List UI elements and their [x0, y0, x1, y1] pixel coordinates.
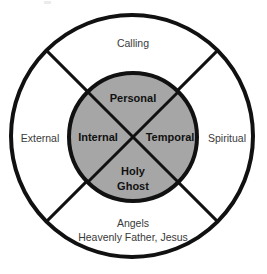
quadrant-label-left-internal: Internal [78, 131, 118, 143]
quadrant-label-bottom-ghost: Ghost [117, 180, 149, 192]
ring-label-bottom-heavenly-father-jesus: Heavenly Father, Jesus [78, 231, 188, 243]
quadrant-label-bottom-holy: Holy [121, 165, 146, 177]
diagram-container: Calling External Spiritual Angels Heaven… [0, 0, 267, 274]
ring-label-left-external: External [21, 132, 60, 144]
quadrant-label-top-personal: Personal [110, 92, 156, 104]
quadrant-label-right-temporal: Temporal [146, 131, 195, 143]
concentric-quadrant-diagram: Calling External Spiritual Angels Heaven… [0, 0, 267, 274]
ring-label-bottom-angels: Angels [117, 217, 149, 229]
ring-label-right-spiritual: Spiritual [208, 132, 246, 144]
ring-label-top-calling: Calling [117, 37, 149, 49]
